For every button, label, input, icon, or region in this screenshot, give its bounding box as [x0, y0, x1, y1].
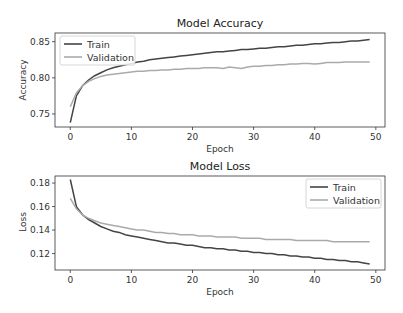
loss-x-label: Epoch — [206, 287, 234, 297]
y-tick-label: 0.85 — [30, 37, 50, 47]
y-tick-label: 0.18 — [30, 178, 50, 188]
x-tick-label: 50 — [370, 132, 382, 142]
figure: Model Accuracy 01020304050 0.750.800.85 … — [0, 0, 403, 313]
x-tick-label: 0 — [67, 132, 73, 142]
x-tick-label: 30 — [248, 275, 260, 285]
x-tick-label: 30 — [248, 132, 260, 142]
x-tick-label: 0 — [67, 275, 73, 285]
x-tick-label: 10 — [126, 275, 138, 285]
legend-train-label: Train — [86, 39, 110, 50]
accuracy-y-ticks: 0.750.800.85 — [30, 37, 55, 119]
accuracy-y-label: Accuracy — [18, 59, 28, 101]
accuracy-x-label: Epoch — [206, 144, 234, 154]
accuracy-title: Model Accuracy — [177, 17, 264, 30]
legend-validation-label: Validation — [87, 52, 134, 63]
y-tick-label: 0.16 — [30, 202, 50, 212]
loss-legend: Train Validation — [306, 179, 381, 208]
x-tick-label: 10 — [126, 132, 138, 142]
legend-train-label: Train — [332, 182, 356, 193]
y-tick-label: 0.75 — [30, 109, 50, 119]
accuracy-x-ticks: 01020304050 — [67, 127, 381, 142]
accuracy-chart: Model Accuracy 01020304050 0.750.800.85 … — [18, 17, 385, 154]
y-tick-label: 0.12 — [30, 249, 50, 259]
x-tick-label: 20 — [187, 275, 199, 285]
loss-chart: Model Loss 01020304050 0.120.140.160.18 … — [18, 160, 385, 297]
x-tick-label: 40 — [309, 275, 321, 285]
accuracy-legend: Train Validation — [60, 36, 135, 65]
loss-y-label: Loss — [18, 212, 28, 232]
x-tick-label: 50 — [370, 275, 382, 285]
x-tick-label: 40 — [309, 132, 321, 142]
loss-title: Model Loss — [190, 160, 251, 173]
legend-validation-label: Validation — [333, 195, 380, 206]
y-tick-label: 0.14 — [30, 225, 50, 235]
y-tick-label: 0.80 — [30, 73, 50, 83]
loss-x-ticks: 01020304050 — [67, 270, 381, 285]
loss-y-ticks: 0.120.140.160.18 — [30, 178, 55, 258]
x-tick-label: 20 — [187, 132, 199, 142]
